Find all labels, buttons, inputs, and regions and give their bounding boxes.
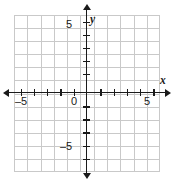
x-axis-tick	[47, 89, 48, 96]
y-axis-tick	[83, 22, 90, 23]
gridline-horizontal	[14, 15, 160, 16]
x-axis-tick	[100, 89, 101, 96]
coordinate-plane-figure: 5 –5 –5 5 0 x y	[0, 0, 174, 181]
x-axis	[8, 92, 166, 93]
x-axis-arrow-right-icon	[165, 89, 171, 97]
gridline-horizontal	[14, 67, 160, 68]
y-axis-tick	[83, 35, 90, 36]
x-axis-label-negative-five: –5	[15, 95, 27, 107]
grid-area	[14, 15, 160, 172]
y-axis-tick	[83, 132, 90, 133]
gridline-horizontal	[14, 94, 160, 95]
x-axis-tick	[114, 89, 115, 96]
y-axis-arrow-up-icon	[83, 4, 91, 10]
y-axis-tick	[83, 106, 90, 107]
y-axis-name-label: y	[90, 13, 95, 25]
x-axis-name-label: x	[160, 74, 166, 86]
x-axis-tick	[153, 89, 154, 96]
y-axis-tick	[83, 48, 90, 49]
x-axis-tick	[127, 89, 128, 96]
gridline-horizontal	[14, 80, 160, 81]
y-axis-tick	[83, 61, 90, 62]
y-axis-tick	[83, 159, 90, 160]
x-axis-label-positive-five: 5	[144, 95, 150, 107]
x-axis-tick	[34, 89, 35, 96]
x-axis-tick	[140, 89, 141, 96]
gridline-horizontal	[14, 54, 160, 55]
gridline-horizontal	[14, 171, 160, 172]
y-axis-label-negative-five: –5	[60, 140, 72, 152]
x-axis-tick	[60, 89, 61, 96]
y-axis-tick	[83, 146, 90, 147]
gridline-horizontal	[14, 41, 160, 42]
x-axis-arrow-left-icon	[3, 89, 9, 97]
y-axis-arrow-down-icon	[83, 173, 91, 179]
y-axis-label-positive-five: 5	[66, 18, 72, 30]
y-axis-tick	[83, 74, 90, 75]
origin-label: 0	[71, 95, 77, 107]
gridline-horizontal	[14, 28, 160, 29]
y-axis-tick	[83, 119, 90, 120]
